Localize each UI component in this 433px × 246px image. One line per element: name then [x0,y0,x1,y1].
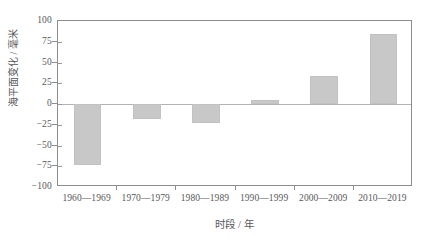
x-axis-tick-label: 1980—1989 [175,192,234,204]
y-axis-inner-tick-mark [58,63,62,64]
x-axis-tick-mark [235,186,236,190]
bar [133,104,161,119]
y-axis-inner-tick-mark [58,125,62,126]
x-axis-tick-label-group: 1960—19691970—19791980—19891990—19992000… [57,192,412,206]
x-axis-tick-label: 1970—1979 [116,192,175,204]
x-axis-tick-label: 2000—2009 [294,192,353,204]
sea-level-change-bar-chart: 1007550250−25−50−75−100 海平面变化 / 毫米 1960—… [0,0,433,246]
x-axis-title: 时段 / 年 [57,218,412,232]
plot-area [57,20,412,186]
y-axis-tick-label: −75 [6,160,52,170]
x-axis-tick-mark-group [57,186,412,191]
x-axis-tick-label: 1990—1999 [235,192,294,204]
bar [192,104,220,123]
y-axis-title: 海平面变化 / 毫米 [8,8,20,128]
x-axis-tick-label: 2010—2019 [353,192,412,204]
bar [74,104,102,165]
y-axis-inner-tick-mark [58,146,62,147]
y-axis-inner-tick-mark [58,104,62,105]
y-axis-inner-tick-mark [58,166,62,167]
x-axis-tick-mark [116,186,117,190]
y-axis-inner-tick-mark [58,42,62,43]
bar [310,76,338,104]
x-axis-tick-mark [294,186,295,190]
bar [251,100,279,104]
bar [370,34,398,104]
y-axis-tick-label: −50 [6,140,52,150]
x-axis-tick-label: 1960—1969 [57,192,116,204]
y-axis-inner-tick-mark [58,83,62,84]
x-axis-tick-mark [353,186,354,190]
y-axis-tick-label: −100 [6,181,52,191]
zero-baseline [58,104,411,105]
x-axis-tick-mark [175,186,176,190]
